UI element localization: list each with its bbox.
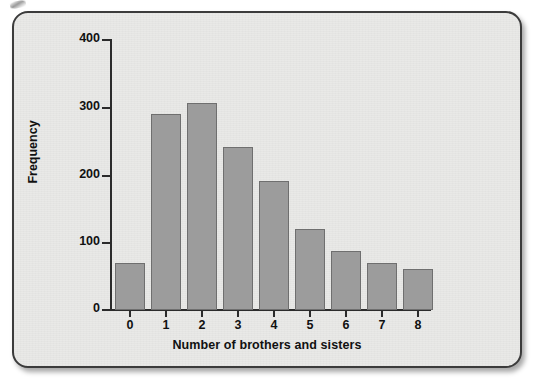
y-axis-tick-label-0-wrap: 0 [56,302,100,316]
x-axis-tick-4 [273,311,275,317]
x-axis-tick-5 [309,311,311,317]
y-axis-tick-300 [102,107,110,109]
bar-category-1 [151,114,181,310]
x-axis-tick-2 [201,311,203,317]
y-axis-tick-label-200-wrap: 200 [56,168,100,182]
bar-category-7 [367,263,397,310]
bar-category-5 [295,229,325,310]
bar-chart-plot-area: 400 300 200 100 0 [14,13,520,366]
x-axis-tick-label-2: 2 [190,319,214,332]
y-axis-tick-label-100: 100 [66,235,100,248]
x-axis-tick-7 [381,311,383,317]
x-axis-title: Number of brothers and sisters [14,338,520,352]
y-axis-tick-100 [102,242,110,244]
y-axis-tick-label-400-wrap: 400 [56,32,100,46]
y-axis-tick-label-200: 200 [66,168,100,181]
x-axis-tick-label-6: 6 [334,319,358,332]
x-axis-tick-label-7: 7 [370,319,394,332]
x-axis-tick-0 [129,311,131,317]
page-speck-artifact [9,0,26,10]
y-axis-tick-label-300: 300 [66,100,100,113]
y-axis-tick-400 [102,39,110,41]
x-axis-tick-6 [345,311,347,317]
y-axis-tick-label-100-wrap: 100 [56,235,100,249]
y-axis-tick-0 [102,309,110,311]
bar-category-6 [331,251,361,310]
bar-category-3 [223,147,253,310]
y-axis-tick-label-400: 400 [66,32,100,45]
x-axis-tick-label-4: 4 [262,319,286,332]
x-axis-tick-label-1: 1 [154,319,178,332]
x-axis-tick-label-5: 5 [298,319,322,332]
bar-category-8 [403,269,433,310]
x-axis-tick-label-0: 0 [118,319,142,332]
x-axis-tick-label-8: 8 [406,319,430,332]
y-axis-tick-200 [102,175,110,177]
x-axis-tick-3 [237,311,239,317]
x-axis-tick-8 [417,311,419,317]
y-axis-title: Frequency [26,102,40,202]
bar-category-4 [259,181,289,310]
y-axis-tick-label-0: 0 [66,302,100,315]
x-axis-tick-1 [165,311,167,317]
bar-category-2 [187,103,217,310]
y-axis-tick-label-300-wrap: 300 [56,100,100,114]
y-axis-line [110,39,112,311]
x-axis-tick-label-3: 3 [226,319,250,332]
bar-category-0 [115,263,145,310]
chart-panel: 400 300 200 100 0 [12,11,522,368]
